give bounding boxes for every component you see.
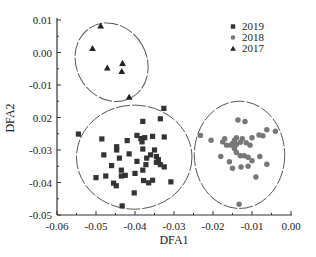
circle-marker	[235, 117, 240, 122]
square-marker	[123, 173, 128, 178]
square-marker	[148, 152, 153, 157]
square-marker	[139, 139, 144, 144]
circle-marker	[208, 138, 213, 143]
circle-marker	[264, 162, 269, 167]
triangle-marker	[230, 46, 236, 51]
circle-marker	[238, 164, 243, 169]
circle-marker	[260, 133, 265, 138]
square-marker	[76, 131, 81, 136]
x-axis-title: DFA1	[159, 233, 188, 247]
series-2017	[89, 22, 132, 99]
triangle-marker	[118, 68, 125, 74]
square-marker	[168, 179, 173, 184]
x-tick-label: -0.05	[85, 220, 108, 232]
circle-marker	[247, 142, 252, 147]
x-tick-label: -0.04	[124, 220, 147, 232]
square-marker	[132, 171, 137, 176]
square-marker	[140, 119, 145, 124]
circle-marker	[218, 154, 223, 159]
y-tick-label: -0.05	[29, 209, 52, 221]
square-marker	[114, 147, 119, 152]
y-tick-label: -0.03	[29, 144, 52, 156]
x-tick-label: -0.03	[163, 220, 186, 232]
square-marker	[127, 151, 132, 156]
square-marker	[150, 178, 155, 183]
square-marker	[158, 116, 163, 121]
square-marker	[117, 156, 122, 161]
triangle-marker	[119, 60, 126, 66]
circle-marker	[253, 174, 258, 179]
y-tick-label: -0.04	[29, 177, 52, 189]
x-tick-label: -0.06	[46, 220, 69, 232]
x-tick-label: -0.02	[202, 220, 225, 232]
dfa-scatter-chart: -0.06-0.05-0.04-0.03-0.02-0.010.000.010.…	[0, 0, 316, 257]
circle-marker	[245, 164, 250, 169]
circle-marker	[227, 159, 232, 164]
series-2019	[76, 106, 174, 209]
y-tick-label: 0.01	[33, 14, 52, 26]
square-marker	[140, 146, 145, 151]
square-marker	[141, 178, 146, 183]
triangle-marker	[89, 45, 96, 51]
square-marker	[143, 162, 148, 167]
square-marker	[132, 190, 137, 195]
square-marker	[93, 175, 98, 180]
square-marker	[134, 159, 139, 164]
square-marker	[162, 164, 167, 169]
x-tick-label: -0.01	[241, 220, 264, 232]
legend: 201920182017	[230, 20, 264, 54]
ellipse-2017	[61, 10, 162, 115]
circle-marker	[273, 128, 278, 133]
triangle-marker	[97, 22, 104, 28]
circle-marker	[198, 133, 203, 138]
square-marker	[109, 163, 114, 168]
square-marker	[120, 203, 125, 208]
square-marker	[150, 134, 155, 139]
series-2018	[198, 117, 278, 207]
legend-label-2017: 2017	[242, 42, 265, 54]
square-marker	[140, 168, 145, 173]
y-tick-label: -0.01	[29, 79, 52, 91]
square-marker	[161, 106, 166, 111]
circle-marker	[249, 135, 254, 140]
x-tick-label: 0.00	[281, 220, 301, 232]
circle-marker	[236, 202, 241, 207]
circle-marker	[238, 139, 243, 144]
triangle-marker	[126, 94, 133, 100]
circle-marker	[264, 127, 269, 132]
circle-marker	[242, 119, 247, 124]
y-tick-label: 0.02	[33, 112, 52, 124]
square-marker	[154, 160, 159, 165]
y-axis-title: DFA2	[3, 103, 17, 132]
square-marker	[103, 173, 108, 178]
square-marker	[101, 152, 106, 157]
y-tick-label: 0.00	[33, 47, 53, 59]
circle-marker	[230, 165, 235, 170]
square-marker	[114, 183, 119, 188]
square-marker	[119, 168, 124, 173]
circle-marker	[231, 35, 236, 40]
square-marker	[162, 134, 167, 139]
square-marker	[231, 24, 235, 28]
square-marker	[125, 138, 130, 143]
square-marker	[99, 136, 104, 141]
triangle-marker	[104, 64, 111, 70]
square-marker	[152, 147, 157, 152]
circle-marker	[257, 154, 262, 159]
circle-marker	[249, 158, 254, 163]
